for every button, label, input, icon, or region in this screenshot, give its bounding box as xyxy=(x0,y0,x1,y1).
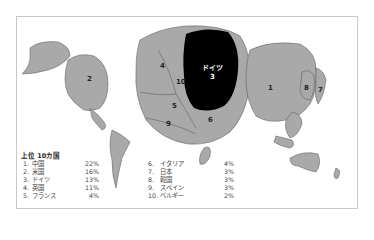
legend-item: 5.フランス4% xyxy=(23,192,99,200)
legend-value: 16% xyxy=(77,168,99,176)
legend-value: 3% xyxy=(212,176,234,184)
label-germany: 3 xyxy=(210,73,215,81)
legend-rank: 7. xyxy=(148,168,160,176)
label-germany-name: ドイツ xyxy=(202,62,223,72)
legend: 上位 10カ国 1.中国22%2.米国16%3.ドイツ13%4.英国11%5.フ… xyxy=(21,150,261,162)
label-china: 1 xyxy=(268,84,273,92)
label-korea: 8 xyxy=(304,84,309,92)
legend-rank: 1. xyxy=(23,160,32,168)
legend-country: ベルギー xyxy=(160,192,212,200)
legend-title: 上位 10カ国 xyxy=(21,150,261,160)
legend-rank: 2. xyxy=(23,168,32,176)
legend-country: フランス xyxy=(32,192,77,200)
legend-country: イタリア xyxy=(160,160,212,168)
label-spain: 9 xyxy=(166,120,171,128)
legend-country: 中国 xyxy=(32,160,77,168)
label-usa: 2 xyxy=(87,75,92,83)
region-australia xyxy=(290,153,320,172)
legend-item: 2.米国16% xyxy=(23,168,99,176)
legend-rank: 8. xyxy=(148,176,160,184)
legend-rank: 6. xyxy=(148,160,160,168)
legend-value: 22% xyxy=(77,160,99,168)
legend-item: 4.英国11% xyxy=(23,184,99,192)
legend-rank: 3. xyxy=(23,176,32,184)
legend-rank: 4. xyxy=(23,184,32,192)
legend-item: 8.韓国3% xyxy=(148,176,234,184)
legend-value: 3% xyxy=(212,184,234,192)
legend-country: 韓国 xyxy=(160,176,212,184)
legend-country: スペイン xyxy=(160,184,212,192)
legend-item: 9.スペイン3% xyxy=(148,184,234,192)
legend-item: 7.日本3% xyxy=(148,168,234,176)
legend-country: ドイツ xyxy=(32,176,77,184)
label-belgium: 10 xyxy=(176,78,186,86)
legend-rank: 10. xyxy=(148,192,160,200)
legend-item: 10.ベルギー2% xyxy=(148,192,234,200)
legend-rank: 5. xyxy=(23,192,32,200)
region-new-zealand xyxy=(334,168,340,179)
label-japan: 7 xyxy=(318,86,323,94)
legend-value: 11% xyxy=(77,184,99,192)
label-uk: 4 xyxy=(160,62,165,70)
legend-item: 6.イタリア4% xyxy=(148,160,234,168)
legend-country: 英国 xyxy=(32,184,77,192)
legend-country: 日本 xyxy=(160,168,212,176)
legend-value: 2% xyxy=(212,192,234,200)
region-alaska xyxy=(22,42,70,74)
legend-item: 1.中国22% xyxy=(23,160,99,168)
legend-rank: 9. xyxy=(148,184,160,192)
legend-value: 13% xyxy=(77,176,99,184)
legend-value: 4% xyxy=(212,160,234,168)
label-france: 5 xyxy=(172,102,177,110)
region-central-america xyxy=(90,108,106,130)
label-italy: 6 xyxy=(208,116,213,124)
legend-value: 3% xyxy=(212,168,234,176)
legend-item: 3.ドイツ13% xyxy=(23,176,99,184)
legend-value: 4% xyxy=(77,192,99,200)
legend-country: 米国 xyxy=(32,168,77,176)
